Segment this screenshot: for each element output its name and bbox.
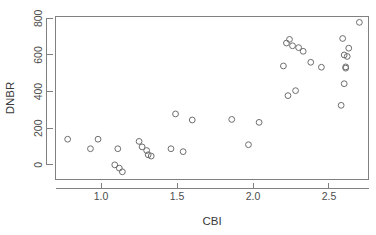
plot-frame: [56, 17, 369, 180]
x-tick-label: 2.5: [322, 190, 337, 202]
x-axis: 1.01.52.02.5: [56, 183, 369, 203]
x-tick-label: 1.5: [170, 190, 185, 202]
data-point: [180, 149, 186, 155]
y-tick-label: 0: [32, 162, 44, 168]
data-point: [308, 59, 314, 65]
y-axis-title: DNBR: [4, 82, 16, 115]
data-point: [290, 43, 296, 49]
data-point: [287, 36, 293, 42]
data-point: [116, 165, 122, 171]
data-point: [119, 169, 125, 175]
y-axis: 0200400600800: [32, 9, 53, 167]
data-point: [95, 136, 101, 142]
data-point: [189, 117, 195, 123]
data-point: [300, 48, 306, 54]
x-tick-label: 2.0: [246, 190, 261, 202]
data-point: [281, 63, 287, 69]
data-point: [246, 142, 252, 148]
data-point: [340, 36, 346, 42]
data-point: [346, 45, 352, 51]
data-point: [319, 64, 325, 70]
data-point: [88, 146, 94, 152]
data-points-layer: [65, 19, 363, 174]
data-point: [256, 119, 262, 125]
data-point: [293, 88, 299, 94]
data-point: [136, 139, 142, 145]
data-point: [285, 93, 291, 99]
data-point: [173, 111, 179, 117]
y-tick-label: 200: [32, 119, 44, 137]
x-tick-label: 1.0: [94, 190, 109, 202]
y-tick-label: 600: [32, 46, 44, 64]
plot-canvas: 0200400600800 1.01.52.02.5 CBI DNBR: [0, 0, 376, 235]
y-tick-label: 800: [32, 9, 44, 27]
y-tick-label: 400: [32, 83, 44, 101]
scatter-plot-figure: 0200400600800 1.01.52.02.5 CBI DNBR: [0, 0, 376, 235]
data-point: [284, 40, 290, 46]
data-point: [229, 117, 235, 123]
data-point: [65, 136, 71, 142]
x-axis-title: CBI: [202, 215, 221, 227]
plot-border: [56, 17, 369, 180]
data-point: [341, 81, 347, 87]
data-point: [338, 102, 344, 108]
data-point: [115, 146, 121, 152]
data-point: [168, 146, 174, 152]
data-point: [356, 19, 362, 25]
